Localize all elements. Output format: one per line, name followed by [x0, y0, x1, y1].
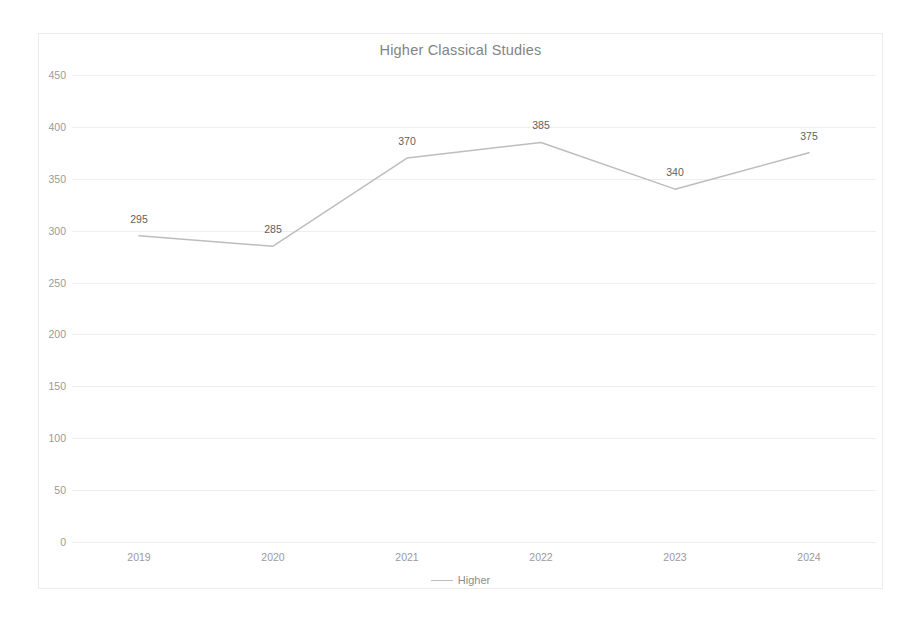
y-axis-tick-layer: 050100150200250300350400450 [20, 75, 66, 542]
gridline-150 [72, 386, 876, 387]
y-axis-label-450: 450 [22, 69, 66, 81]
chart-container: Higher Classical Studies 050100150200250… [0, 0, 917, 633]
legend-line-swatch-higher [431, 580, 453, 581]
legend-label-higher: Higher [458, 574, 490, 586]
y-axis-label-350: 350 [22, 173, 66, 185]
gridline-50 [72, 490, 876, 491]
y-axis-label-400: 400 [22, 121, 66, 133]
y-axis-label-50: 50 [22, 484, 66, 496]
gridline-0 [72, 542, 876, 543]
data-label-2021: 370 [398, 135, 416, 147]
gridline-100 [72, 438, 876, 439]
gridline-250 [72, 283, 876, 284]
x-axis-label-2023: 2023 [663, 551, 686, 563]
y-axis-label-0: 0 [22, 536, 66, 548]
gridline-layer [72, 75, 876, 542]
x-axis-label-2021: 2021 [395, 551, 418, 563]
chart-legend[interactable]: Higher [38, 574, 883, 586]
data-label-2019: 295 [130, 213, 148, 225]
gridline-200 [72, 334, 876, 335]
data-label-2024: 375 [800, 130, 818, 142]
x-axis-label-2024: 2024 [797, 551, 820, 563]
x-axis-label-2022: 2022 [529, 551, 552, 563]
gridline-450 [72, 75, 876, 76]
gridline-400 [72, 127, 876, 128]
y-axis-label-100: 100 [22, 432, 66, 444]
x-axis-label-2020: 2020 [261, 551, 284, 563]
data-label-2022: 385 [532, 119, 550, 131]
y-axis-label-250: 250 [22, 277, 66, 289]
y-axis-label-300: 300 [22, 225, 66, 237]
x-axis-label-2019: 2019 [127, 551, 150, 563]
y-axis-label-200: 200 [22, 328, 66, 340]
data-label-2023: 340 [666, 166, 684, 178]
data-label-2020: 285 [264, 223, 282, 235]
gridline-350 [72, 179, 876, 180]
gridline-300 [72, 231, 876, 232]
y-axis-label-150: 150 [22, 380, 66, 392]
chart-title: Higher Classical Studies [38, 42, 883, 58]
